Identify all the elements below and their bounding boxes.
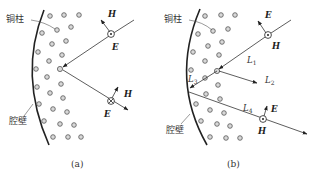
copper-post-leader bbox=[31, 20, 55, 29]
path-label-L3: L3 bbox=[187, 74, 198, 85]
e-label-b2: E bbox=[270, 104, 278, 114]
cavity-wall-leader bbox=[181, 114, 190, 124]
h-out-of-page-icon bbox=[260, 116, 267, 123]
e-into-page-icon bbox=[108, 98, 115, 105]
incident-ray bbox=[63, 34, 112, 67]
e-vector-arrow-b2 bbox=[264, 106, 267, 116]
h-label-b2: H bbox=[257, 126, 267, 136]
incident-ray-tail bbox=[268, 20, 291, 35]
panel-a: H E H E 铜柱 腔壁 (a) bbox=[6, 9, 134, 169]
h-vector-arrow-a1 bbox=[101, 20, 110, 32]
caption-a: (a) bbox=[71, 159, 83, 169]
incident-ray-tail bbox=[112, 20, 134, 34]
h-out-of-page-icon bbox=[108, 31, 115, 38]
copper-posts bbox=[34, 13, 84, 140]
copper-posts bbox=[189, 13, 243, 141]
path-label-L2: L2 bbox=[264, 75, 275, 86]
copper-post-label: 铜柱 bbox=[164, 13, 182, 24]
h-label-b1: H bbox=[271, 41, 281, 51]
path-label-L1: L1 bbox=[246, 55, 256, 66]
diagram-canvas: H E H E 铜柱 腔壁 (a) bbox=[0, 0, 315, 181]
e-label-b1: E bbox=[264, 10, 272, 20]
cavity-wall-leader bbox=[24, 104, 33, 116]
e-vector-arrow-b1 bbox=[258, 21, 266, 33]
scattering-post bbox=[57, 66, 62, 71]
caption-b: (b) bbox=[227, 159, 240, 169]
panel-b: E H E H L1 L2 L3 L4 铜柱 腔壁 (b) bbox=[164, 9, 307, 169]
ray-L1 bbox=[219, 35, 268, 69]
reflected-ray bbox=[63, 70, 128, 110]
path-label-L4: L4 bbox=[242, 103, 253, 114]
e-label-a1: E bbox=[111, 42, 119, 52]
h-label-a1: H bbox=[107, 9, 117, 19]
e-label-a2: E bbox=[103, 109, 111, 119]
copper-post-label: 铜柱 bbox=[6, 13, 24, 24]
h-vector-arrow-a2 bbox=[112, 87, 118, 98]
cavity-wall-label: 腔壁 bbox=[166, 124, 184, 135]
h-label-a2: H bbox=[123, 89, 133, 99]
cavity-wall-label: 腔壁 bbox=[9, 115, 27, 126]
ray-L2 bbox=[219, 71, 257, 83]
